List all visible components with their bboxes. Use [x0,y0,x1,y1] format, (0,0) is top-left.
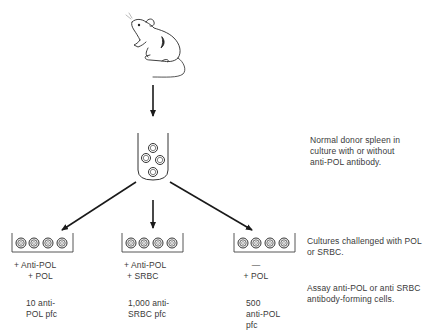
treatment-1-line1: + Anti-POL [14,260,74,271]
arrow-left-branch [62,182,136,230]
result-3-line1: 500 [246,298,280,309]
culture-tube-icon [138,133,168,180]
well-plate-3 [234,233,295,252]
treatment-1-line2: + POL [14,271,74,282]
result-1-line2: POL pfc [26,309,57,320]
result-3: 500 anti-POL pfc [246,298,280,331]
result-3-line2: anti-POL [246,309,280,320]
result-3-line3: pfc [246,320,280,331]
annotation-step3-line1: Assay anti-POL or anti SRBC [307,283,420,294]
result-1: 10 anti- POL pfc [26,298,57,320]
treatment-1: + Anti-POL + POL [14,260,74,282]
annotation-step2-line2: or SRBC. [307,247,422,258]
annotation-step3-line2: antibody-forming cells. [307,294,420,305]
treatment-2-line2: + SRBC [124,271,184,282]
diagram-canvas: Normal donor spleen in culture with or w… [0,0,438,335]
arrow-right-branch [170,182,252,230]
treatment-3: — + POL [236,260,276,282]
treatment-3-line1: — [236,260,276,271]
annotation-step1-line3: anti-POL antibody. [310,157,400,168]
result-2: 1,000 anti- SRBC pfc [128,298,169,320]
annotation-step1-line1: Normal donor spleen in [310,135,400,146]
annotation-step3: Assay anti-POL or anti SRBC antibody-for… [307,283,420,305]
result-2-line1: 1,000 anti- [128,298,169,309]
annotation-step1: Normal donor spleen in culture with or w… [310,135,400,168]
result-2-line2: SRBC pfc [128,309,169,320]
treatment-3-line2: + POL [236,271,276,282]
mouse-icon [126,13,185,77]
annotation-step2: Cultures challenged with POL or SRBC. [307,236,422,258]
well-plate-2 [122,233,183,252]
annotation-step1-line2: culture with or without [310,146,400,157]
well-plate-1 [12,233,73,252]
annotation-step2-line1: Cultures challenged with POL [307,236,422,247]
treatment-2: + Anti-POL + SRBC [124,260,184,282]
result-1-line1: 10 anti- [26,298,57,309]
treatment-2-line1: + Anti-POL [124,260,184,271]
